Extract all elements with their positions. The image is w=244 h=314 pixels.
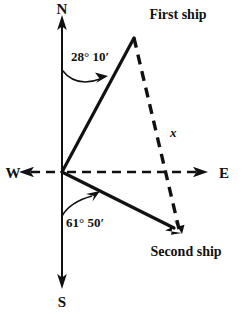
distance-x-label: x: [169, 125, 177, 140]
compass-label-east: E: [219, 165, 229, 181]
angle-label-second-bearing: 61° 50′: [66, 215, 104, 230]
compass-label-north: N: [57, 1, 68, 17]
angle-arc-north-arrow-icon: [95, 73, 108, 84]
bearing-diagram-figure: N S W E First ship Second ship 28° 10′ 6…: [0, 0, 244, 314]
compass-label-south: S: [58, 294, 66, 310]
angle-arc-south-arrow-icon: [86, 191, 100, 202]
diagram-canvas: N S W E First ship Second ship 28° 10′ 6…: [0, 0, 244, 314]
angle-arc-south: [62, 196, 92, 216]
second-ship-label: Second ship: [150, 244, 221, 259]
first-ship-label: First ship: [149, 7, 206, 22]
compass-label-west: W: [6, 165, 21, 181]
angle-arc-north: [62, 70, 100, 82]
angle-label-first-bearing: 28° 10′: [71, 49, 109, 64]
